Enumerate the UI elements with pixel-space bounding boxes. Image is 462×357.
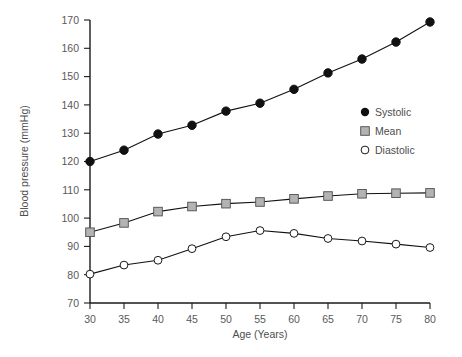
x-tick-label: 65: [322, 313, 334, 325]
x-tick-label: 45: [186, 313, 198, 325]
data-point-marker: [222, 107, 230, 115]
data-point-marker: [154, 256, 162, 264]
data-point-marker: [120, 219, 129, 228]
x-tick-label: 35: [118, 313, 130, 325]
x-tick-label: 30: [84, 313, 96, 325]
y-tick-label: 90: [67, 240, 79, 252]
data-point-marker: [120, 261, 128, 269]
data-point-marker: [86, 157, 94, 165]
data-point-marker: [188, 121, 196, 129]
y-tick-label: 80: [67, 269, 79, 281]
data-point-marker: [290, 229, 298, 237]
data-point-marker: [222, 233, 230, 241]
x-axis-title: Age (Years): [232, 328, 287, 340]
legend-entry-mean: Mean: [361, 125, 402, 137]
y-tick-label: 100: [61, 212, 79, 224]
legend-label: Mean: [375, 125, 401, 137]
chart-canvas: 708090100110120130140150160170 Blood pre…: [0, 0, 462, 357]
data-point-marker: [392, 189, 401, 198]
data-point-marker: [120, 146, 128, 154]
y-axis-title: Blood pressure (mmHg): [18, 105, 30, 216]
y-tick-label: 110: [62, 184, 79, 196]
data-point-marker: [256, 227, 264, 235]
data-point-marker: [392, 38, 400, 46]
x-tick-label: 60: [288, 313, 300, 325]
y-tick-label: 120: [61, 155, 79, 167]
legend-marker-filled-circle-icon: [361, 108, 369, 116]
legend-marker-square-icon: [361, 127, 370, 136]
x-tick-label: 50: [220, 313, 232, 325]
y-tick-label: 170: [61, 14, 79, 26]
legend-marker-open-circle-icon: [361, 146, 369, 154]
data-point-marker: [324, 235, 332, 243]
data-point-marker: [154, 207, 163, 216]
data-point-marker: [392, 240, 400, 248]
data-point-marker: [358, 55, 366, 63]
data-point-marker: [154, 130, 162, 138]
x-tick-label: 80: [424, 313, 436, 325]
data-point-marker: [426, 18, 434, 26]
y-tick-label: 150: [61, 70, 79, 82]
blood-pressure-chart: 708090100110120130140150160170 Blood pre…: [0, 0, 462, 357]
data-point-marker: [188, 245, 196, 253]
x-tick-label: 40: [152, 313, 164, 325]
legend-label: Diastolic: [375, 144, 415, 156]
data-point-marker: [290, 85, 298, 93]
y-tick-label: 140: [61, 99, 79, 111]
data-point-marker: [426, 189, 435, 198]
data-point-marker: [358, 237, 366, 245]
data-point-marker: [358, 189, 367, 198]
y-tick-label: 70: [67, 297, 79, 309]
legend-label: Systolic: [375, 106, 411, 118]
data-point-marker: [86, 270, 94, 278]
y-tick-label: 160: [61, 42, 79, 54]
data-point-marker: [256, 99, 264, 107]
data-point-marker: [324, 192, 333, 201]
y-tick-label: 130: [61, 127, 79, 139]
x-tick-label: 75: [390, 313, 402, 325]
data-point-marker: [426, 244, 434, 252]
data-point-marker: [290, 195, 299, 204]
data-point-marker: [86, 228, 95, 237]
x-tick-label: 70: [356, 313, 368, 325]
data-point-marker: [222, 199, 231, 208]
data-point-marker: [256, 198, 265, 207]
data-point-marker: [188, 202, 197, 211]
data-point-marker: [324, 69, 332, 77]
x-tick-label: 55: [254, 313, 266, 325]
